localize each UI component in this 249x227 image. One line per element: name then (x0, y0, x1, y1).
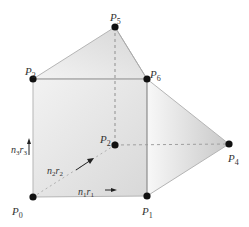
vertex-p2 (111, 141, 118, 148)
arrow-n3r3 (27, 138, 31, 155)
vertex-p0 (29, 193, 36, 200)
polyhedron-diagram: P0P1P2P3P4P5P6 n1r1n2r2n3r3 (0, 0, 249, 227)
vertex-label-p4: P4 (227, 152, 239, 167)
face-top (33, 27, 147, 79)
vector-label-n3r3: n3r3 (11, 144, 27, 157)
vertex-p4 (225, 140, 232, 147)
vertex-label-p6: P6 (149, 68, 161, 83)
vertex-p1 (143, 192, 150, 199)
diagram-svg: P0P1P2P3P4P5P6 n1r1n2r2n3r3 (0, 0, 249, 227)
vertex-label-p0: P0 (11, 205, 23, 220)
face-front (33, 79, 147, 197)
vertex-label-p1: P1 (141, 205, 153, 220)
face-right (147, 79, 229, 196)
